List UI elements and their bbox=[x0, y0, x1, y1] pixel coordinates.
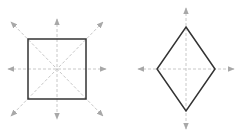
rhombus-figure bbox=[138, 8, 234, 129]
symmetry-diagram bbox=[0, 0, 238, 137]
square-figure bbox=[8, 19, 106, 119]
